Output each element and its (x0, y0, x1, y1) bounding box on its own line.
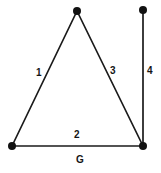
graph-edge-1[interactable] (12, 11, 77, 146)
graph-name-label: G (76, 155, 84, 165)
edges-group (12, 10, 143, 146)
edge-label-2: 2 (74, 130, 80, 140)
graph-svg (0, 0, 161, 173)
graph-edge-3[interactable] (77, 11, 143, 146)
edge-label-3: 3 (110, 66, 116, 76)
edge-label-1: 1 (36, 68, 42, 78)
diagram-canvas: 1234 G (0, 0, 161, 173)
graph-node-apex[interactable] (73, 7, 81, 15)
graph-node-bottom-left[interactable] (8, 142, 16, 150)
graph-node-bottom-right[interactable] (139, 142, 147, 150)
edge-label-4: 4 (147, 66, 153, 76)
graph-node-top-right[interactable] (139, 6, 147, 14)
